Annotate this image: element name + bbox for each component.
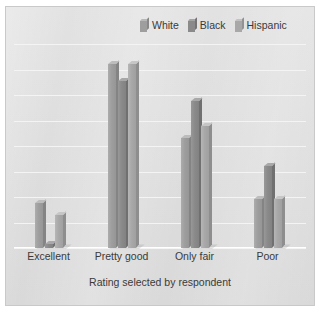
legend-swatch-white-icon	[140, 19, 149, 32]
bar-hispanic-excellent[interactable]	[55, 215, 63, 248]
legend-label-black: Black	[200, 20, 226, 31]
legend-item-white[interactable]: White	[140, 19, 179, 32]
bars-layer	[14, 44, 306, 248]
bar-hispanic-poor[interactable]	[274, 199, 282, 248]
bar-hispanic-only-fair[interactable]	[201, 126, 209, 248]
bar-white-only-fair[interactable]	[181, 138, 189, 248]
x-tick-label-only-fair: Only fair	[175, 250, 214, 262]
plot-area	[14, 44, 306, 248]
x-axis-tick-labels: ExcellentPretty goodOnly fairPoor	[14, 250, 306, 266]
bar-chart: White Black Hispanic ExcellentPretty goo…	[0, 0, 320, 317]
x-tick-label-poor: Poor	[256, 250, 278, 262]
x-tick-label-pretty-good: Pretty good	[95, 250, 149, 262]
bar-black-only-fair[interactable]	[191, 101, 199, 248]
bar-white-poor[interactable]	[254, 199, 262, 248]
x-tick-label-excellent: Excellent	[27, 250, 70, 262]
legend-item-hispanic[interactable]: Hispanic	[235, 19, 287, 32]
legend-swatch-hispanic-icon	[235, 19, 244, 32]
bar-hispanic-pretty-good[interactable]	[128, 64, 136, 248]
bar-white-excellent[interactable]	[35, 203, 43, 248]
legend-swatch-black-icon	[188, 19, 197, 32]
bar-black-poor[interactable]	[264, 166, 272, 248]
legend-label-white: White	[152, 20, 179, 31]
bar-black-excellent[interactable]	[45, 244, 53, 248]
x-axis-title: Rating selected by respondent	[0, 276, 320, 288]
legend-label-hispanic: Hispanic	[247, 20, 287, 31]
legend-item-black[interactable]: Black	[188, 19, 226, 32]
bar-white-pretty-good[interactable]	[108, 64, 116, 248]
chart-legend: White Black Hispanic	[140, 19, 287, 32]
bar-black-pretty-good[interactable]	[118, 81, 126, 248]
